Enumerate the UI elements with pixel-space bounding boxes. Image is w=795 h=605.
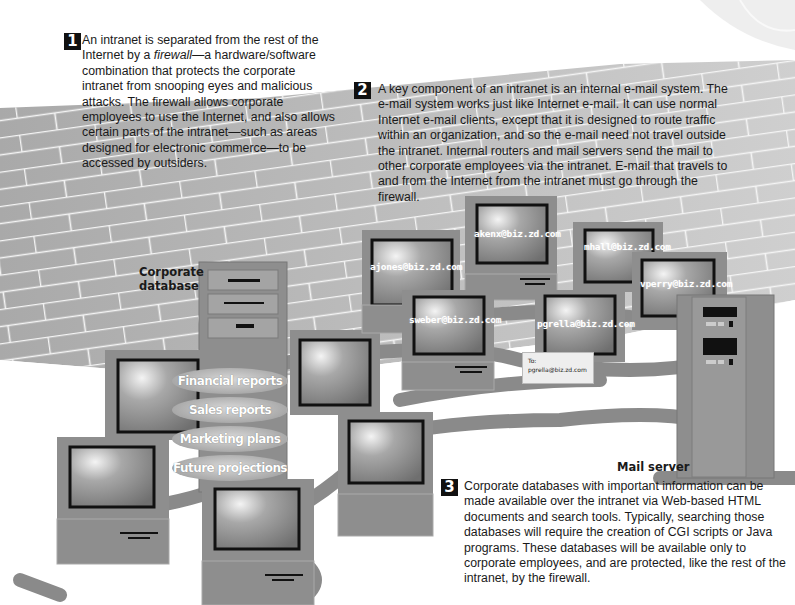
database-item-sales-reports: Sales reports: [172, 397, 288, 423]
callout-1-text: An intranet is separated from the rest o…: [82, 33, 336, 172]
computer-workstation: [338, 412, 433, 536]
email-label: vperry@biz.zd.com: [640, 278, 732, 289]
callout-1-emphasis: firewall: [154, 48, 192, 62]
computer-workstation: [290, 330, 380, 415]
email-label: ajones@biz.zd.com: [370, 261, 462, 272]
computer-workstation: [57, 437, 169, 564]
callout-3: 3 Corporate databases with important inf…: [441, 479, 791, 587]
email-label: pgrella@biz.zd.com: [537, 318, 635, 329]
satellite-dish-icon: [700, 0, 795, 50]
mail-server-label: Mail server: [617, 460, 689, 474]
email-label: sweber@biz.zd.com: [409, 314, 501, 325]
callout-2-text: A key component of an intranet is an int…: [378, 82, 732, 205]
email-to-address: pgrella@biz.zd.com: [528, 365, 588, 374]
computer-workstation: [402, 290, 494, 390]
computer-workstation: [105, 350, 205, 440]
corporate-database-label: Corporate database: [139, 265, 209, 293]
database-item-financial-reports: Financial reports: [172, 368, 288, 394]
callout-3-text: Corporate databases with important infor…: [464, 479, 791, 587]
mail-server: [677, 295, 774, 478]
email-to-label: To:: [528, 356, 588, 365]
callout-2: 2 A key component of an intranet is an i…: [354, 82, 732, 205]
callout-number-3: 3: [441, 479, 458, 496]
email-message-note: To: pgrella@biz.zd.com: [522, 352, 594, 384]
email-label: akenx@biz.zd.com: [474, 228, 561, 239]
email-label: mhall@biz.zd.com: [584, 241, 671, 252]
callout-number-2: 2: [354, 82, 371, 99]
database-item-marketing-plans: Marketing plans: [172, 426, 288, 452]
computer-workstation: [465, 196, 557, 300]
database-item-future-projections: Future projections: [172, 455, 288, 481]
callout-number-1: 1: [64, 33, 81, 50]
callout-1: 1 An intranet is separated from the rest…: [64, 33, 336, 172]
computer-workstation: [202, 479, 314, 605]
callout-1-text-end: —a hardware/software combination that pr…: [82, 48, 335, 170]
